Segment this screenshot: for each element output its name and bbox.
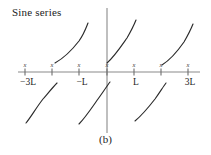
- figure-title: Sine series: [12, 6, 62, 18]
- tick-variable-marker: x: [106, 61, 109, 68]
- curve-branch-upper-right: [162, 24, 193, 65]
- curve-branch-upper-left: [55, 23, 88, 63]
- tick-variable-marker: x: [133, 61, 136, 68]
- x-tick-label-minus-L: −L: [76, 77, 87, 87]
- curve-branch-upper-center: [107, 20, 136, 63]
- curve-branch-lower-right: [135, 83, 166, 121]
- x-tick-label-minus-3L: −3L: [20, 77, 36, 87]
- tick-variable-marker: x: [51, 61, 54, 68]
- tick-variable-marker: x: [24, 61, 27, 68]
- sine-series-figure: Sine series x x x x x x x −3L −L L 3L (b…: [0, 0, 211, 155]
- x-tick-label-3L: 3L: [185, 77, 196, 87]
- figure-caption: (b): [0, 133, 211, 145]
- x-tick-label-L: L: [133, 77, 139, 87]
- curve-branch-lower-left: [26, 83, 57, 123]
- tick-variable-marker: x: [160, 61, 163, 68]
- tick-variable-marker: x: [78, 61, 81, 68]
- axes-group: [18, 8, 200, 133]
- tick-variable-marker: x: [187, 61, 190, 68]
- curve-branch-lower-center: [79, 82, 110, 124]
